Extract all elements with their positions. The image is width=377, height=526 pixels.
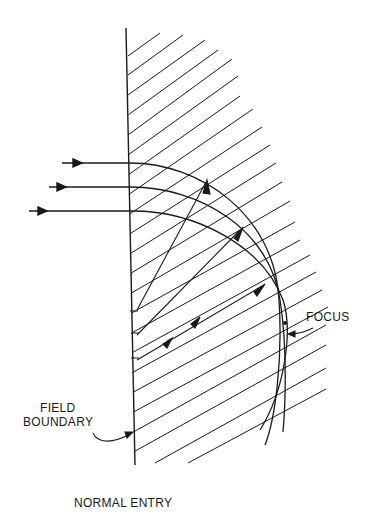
focus-point <box>283 321 287 325</box>
field-hatching <box>128 33 328 463</box>
focus-leader <box>288 328 313 337</box>
field-boundary-label-line1: FIELD <box>40 401 76 415</box>
field-boundary-label-line2: BOUNDARY <box>23 415 93 429</box>
diagram-canvas: FOCUS FIELD BOUNDARY NORMAL ENTRY <box>0 0 377 526</box>
focus-label: FOCUS <box>306 310 350 324</box>
field-boundary-leader <box>93 432 133 441</box>
diagram-title: NORMAL ENTRY <box>74 496 172 510</box>
incident-rays <box>29 159 132 215</box>
normal-entry-diagram <box>0 0 377 526</box>
